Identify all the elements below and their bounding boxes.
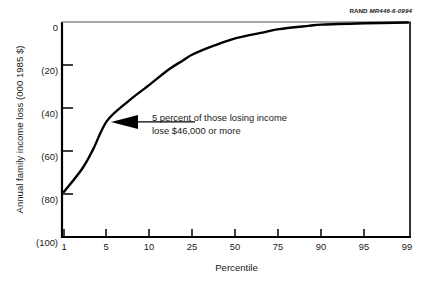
data-series-line xyxy=(64,22,408,191)
y-tick-marks xyxy=(62,65,73,194)
x-tick-marks xyxy=(64,229,364,237)
plot-area xyxy=(0,0,428,290)
figure-container: RAND MR446-6-0994 Annual family income l… xyxy=(0,0,428,290)
annotation-arrowhead-icon xyxy=(111,115,138,129)
